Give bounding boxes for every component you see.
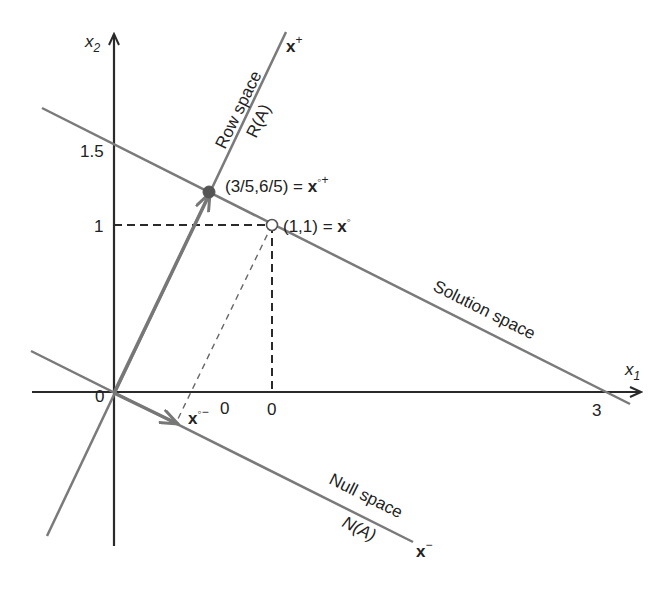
tick-x-zero-b: 0 — [267, 400, 276, 419]
x1-axis-label: x1 — [624, 360, 640, 383]
dashed-projection-line — [176, 225, 272, 423]
x-o-plus-label: (3/5,6/5) = x◦+ — [225, 173, 328, 196]
point-x-o-plus — [203, 186, 215, 198]
point-x-o — [267, 220, 278, 231]
x2-axis-label: x2 — [84, 32, 101, 55]
tick-x-3: 3 — [592, 401, 601, 420]
x-plus-label: x+ — [286, 33, 302, 56]
tick-y-1: 1 — [94, 217, 103, 236]
null-space-sublabel: N(A) — [339, 513, 379, 546]
x-o-label: (1,1) = x◦ — [283, 213, 351, 236]
null-space-label: Null space — [326, 470, 406, 522]
tick-x-zero-a: 0 — [220, 399, 229, 418]
linear-algebra-diagram: x2 x1 1.5 1 3 0 0 0 Row space R(A) x+ So… — [0, 0, 671, 589]
vector-x-o-minus — [114, 393, 178, 424]
vector-x-o-plus — [114, 193, 210, 393]
x-minus-label: x− — [416, 538, 432, 561]
origin-label: 0 — [95, 387, 104, 406]
tick-y-1-5: 1.5 — [80, 142, 104, 161]
x-o-minus-label: x◦− — [188, 405, 209, 428]
solution-space-label: Solution space — [430, 277, 538, 344]
